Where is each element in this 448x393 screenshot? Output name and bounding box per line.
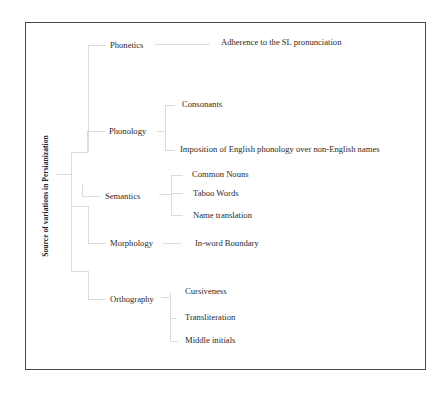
- category-orthography: Orthography: [110, 294, 154, 304]
- connector-semantics-b: [82, 196, 100, 197]
- leaf-taboo-words: Taboo Words: [193, 188, 239, 198]
- connector-orthography-child-2: [170, 318, 176, 319]
- leaf-transliteration: Transliteration: [185, 312, 235, 322]
- connector-semantics-a: [82, 183, 83, 196]
- connector-phonetics-child: [155, 44, 210, 45]
- connector-morphology-a: [71, 206, 88, 207]
- leaf-middle-initials: Middle initials: [185, 335, 235, 345]
- leaf-common-nouns: Common Nouns: [192, 169, 249, 179]
- connector-orthography-child-3: [170, 341, 178, 342]
- connector-orthography-b: [88, 271, 89, 299]
- leaf-adherence-sl-pronunciation: Adherence to the SL pronunciation: [221, 37, 341, 47]
- connector-morphology-c: [88, 243, 106, 244]
- leaf-in-word-boundary: In-word Boundary: [195, 238, 259, 248]
- connector-orthography-c: [88, 299, 106, 300]
- connector-semantics-stub: [159, 194, 171, 195]
- leaf-name-translation: Name translation: [193, 210, 252, 220]
- connector-semantics-child-2: [171, 193, 183, 194]
- connector-phonology-a: [87, 131, 88, 152]
- connector-phonology-stub: [157, 131, 165, 132]
- connector-orthography-a: [71, 271, 88, 272]
- connector-morphology-child: [163, 243, 181, 244]
- connector-phonetics-b: [88, 45, 89, 152]
- leaf-cursiveness: Cursiveness: [185, 286, 227, 296]
- connector-phonetics-a: [71, 152, 88, 153]
- connector-orthography-bracket: [170, 292, 171, 341]
- category-morphology: Morphology: [110, 238, 153, 248]
- connector-root-stub: [56, 174, 71, 175]
- category-phonetics: Phonetics: [110, 40, 143, 50]
- connector-main-spine: [71, 152, 72, 272]
- connector-orthography-stub: [161, 297, 170, 298]
- connector-semantics-child-3: [171, 215, 183, 216]
- connector-phonology-child-2: [165, 150, 175, 151]
- leaf-imposition-english-phonology: Imposition of English phonology over non…: [180, 144, 380, 154]
- root-label: Source of variations in Persianization: [41, 135, 50, 256]
- connector-semantics-bracket: [171, 175, 172, 215]
- connector-phonetics-c: [88, 45, 106, 46]
- category-semantics: Semantics: [105, 191, 140, 201]
- leaf-consonants: Consonants: [182, 99, 222, 109]
- connector-phonology-child-1: [165, 105, 175, 106]
- category-phonology: Phonology: [109, 126, 146, 136]
- connector-phonology-b: [87, 131, 105, 132]
- connector-phonology-bracket: [165, 105, 166, 150]
- connector-morphology-b: [88, 206, 89, 243]
- connector-semantics-child-1: [171, 175, 183, 176]
